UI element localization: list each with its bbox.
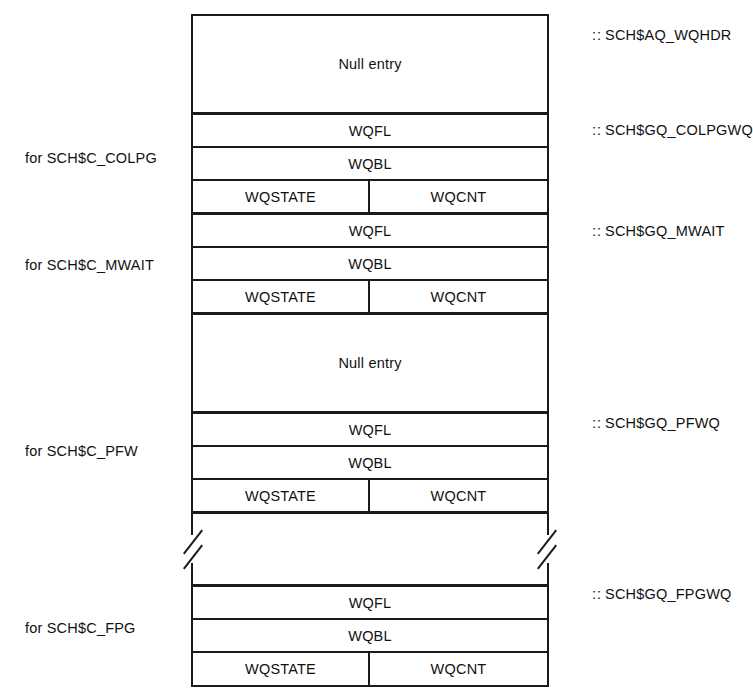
label-colons: :: bbox=[592, 586, 602, 602]
break-slash bbox=[183, 530, 203, 555]
wqhdr-layout-diagram: Null entryWQFLWQBLWQSTATEWQCNTWQFLWQBLWQ… bbox=[0, 0, 753, 699]
table-row-wqbl: WQBL bbox=[193, 248, 547, 281]
break-gap bbox=[187, 535, 199, 563]
label-colons: :: bbox=[592, 122, 602, 138]
cell-wqfl: WQFL bbox=[193, 215, 547, 246]
cell-wqcnt: WQCNT bbox=[370, 281, 547, 312]
table-row-wqbl: WQBL bbox=[193, 620, 547, 653]
break-slash bbox=[537, 545, 557, 570]
table-row-wqstate-wqcnt: WQSTATEWQCNT bbox=[193, 653, 547, 687]
cell-wqstate: WQSTATE bbox=[193, 653, 370, 685]
wqhdr-table: Null entryWQFLWQBLWQSTATEWQCNTWQFLWQBLWQ… bbox=[191, 14, 549, 687]
cell-wqcnt: WQCNT bbox=[370, 181, 547, 212]
break-gap bbox=[541, 535, 553, 563]
label-symbol: SCH$GQ_MWAIT bbox=[605, 223, 724, 239]
break-slash bbox=[183, 545, 203, 570]
label-symbol: SCH$GQ_PFWQ bbox=[605, 415, 720, 431]
label-symbol: SCH$GQ_COLPGWQ bbox=[605, 122, 753, 138]
cell-wqstate: WQSTATE bbox=[193, 480, 370, 511]
cell-wqstate: WQSTATE bbox=[193, 281, 370, 312]
cell-wqbl: WQBL bbox=[193, 248, 547, 279]
break-mark-left-icon bbox=[176, 529, 210, 569]
break-slash bbox=[537, 530, 557, 555]
right-label-2: ::SCH$GQ_MWAIT bbox=[592, 223, 725, 239]
right-label-1: ::SCH$GQ_COLPGWQ bbox=[592, 122, 753, 138]
label-colons: :: bbox=[592, 223, 602, 239]
cell-wqbl: WQBL bbox=[193, 447, 547, 478]
label-colons: :: bbox=[592, 27, 602, 43]
label-symbol: SCH$GQ_FPGWQ bbox=[605, 586, 731, 602]
table-row-wqfl: WQFL bbox=[193, 414, 547, 447]
left-label-0: for SCH$C_COLPG bbox=[25, 150, 157, 166]
right-label-3: ::SCH$GQ_PFWQ bbox=[592, 415, 720, 431]
right-label-4: ::SCH$GQ_FPGWQ bbox=[592, 586, 732, 602]
cell-wqcnt: WQCNT bbox=[370, 653, 547, 685]
left-label-1: for SCH$C_MWAIT bbox=[25, 257, 154, 273]
break-mark-right-icon bbox=[530, 529, 564, 569]
cell-null-entry: Null entry bbox=[193, 16, 547, 112]
label-colons: :: bbox=[592, 415, 602, 431]
table-row-wqfl: WQFL bbox=[193, 587, 547, 620]
cell-wqfl: WQFL bbox=[193, 587, 547, 618]
left-label-3: for SCH$C_FPG bbox=[25, 620, 136, 636]
table-row-null-entry: Null entry bbox=[193, 315, 547, 414]
table-row-null-entry: Null entry bbox=[193, 16, 547, 115]
label-symbol: SCH$AQ_WQHDR bbox=[605, 27, 731, 43]
cell-wqbl: WQBL bbox=[193, 620, 547, 651]
cell-wqfl: WQFL bbox=[193, 115, 547, 146]
table-row-wqstate-wqcnt: WQSTATEWQCNT bbox=[193, 181, 547, 215]
table-row-wqfl: WQFL bbox=[193, 215, 547, 248]
table-row-wqbl: WQBL bbox=[193, 148, 547, 181]
table-row-wqfl: WQFL bbox=[193, 115, 547, 148]
table-row-wqstate-wqcnt: WQSTATEWQCNT bbox=[193, 281, 547, 315]
cell-wqcnt: WQCNT bbox=[370, 480, 547, 511]
cell-null-entry: Null entry bbox=[193, 315, 547, 411]
table-row-wqbl: WQBL bbox=[193, 447, 547, 480]
table-break-band bbox=[193, 514, 547, 587]
cell-wqstate: WQSTATE bbox=[193, 181, 370, 212]
right-label-0: ::SCH$AQ_WQHDR bbox=[592, 27, 732, 43]
cell-wqbl: WQBL bbox=[193, 148, 547, 179]
table-row-wqstate-wqcnt: WQSTATEWQCNT bbox=[193, 480, 547, 514]
left-label-2: for SCH$C_PFW bbox=[25, 443, 138, 459]
cell-wqfl: WQFL bbox=[193, 414, 547, 445]
